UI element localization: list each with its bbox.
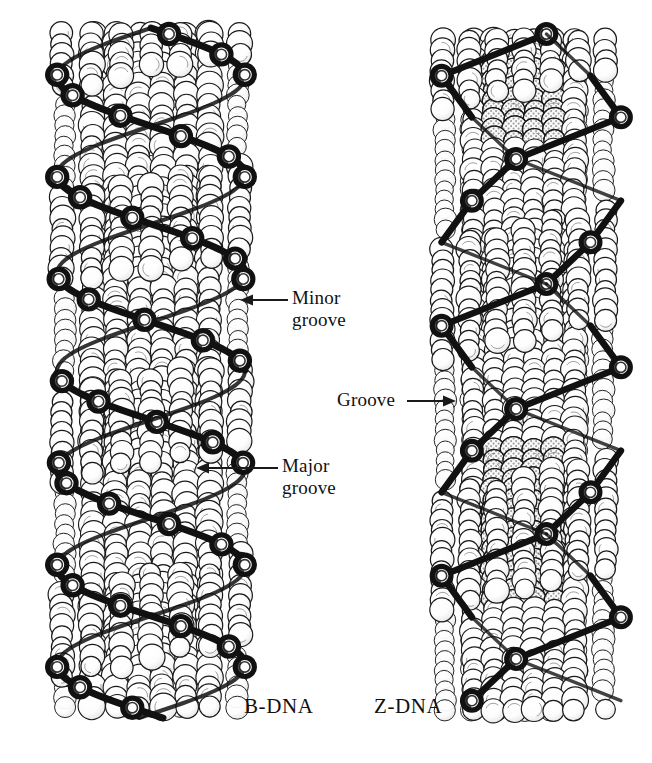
groove-label: Groove <box>337 389 395 411</box>
annotation-arrows-layer <box>0 0 652 763</box>
minor-groove-arrow-icon <box>240 294 288 305</box>
minor-groove-label: Minor groove <box>292 287 346 332</box>
major-groove-arrow-icon <box>196 462 278 473</box>
groove-arrow-icon <box>407 395 456 406</box>
z-dna-caption: Z-DNA <box>374 694 442 719</box>
dna-figure: Minor groove Major groove Groove B-DNA Z… <box>0 0 652 763</box>
major-groove-label: Major groove <box>282 455 336 500</box>
b-dna-caption: B-DNA <box>244 694 314 719</box>
